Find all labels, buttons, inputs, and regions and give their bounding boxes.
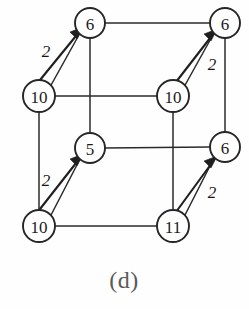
node-top-back-left-label: 6 — [86, 15, 95, 34]
arrow-top-left-weight: 2 — [42, 42, 51, 61]
arrow-bottom-left: 2 — [40, 154, 83, 209]
node-top-front-right-label: 10 — [165, 88, 182, 107]
node-bot-front-right[interactable]: 11 — [157, 210, 189, 242]
cube-graph-diagram: 2 2 2 2 6 — [0, 0, 249, 309]
node-bot-front-left-label: 10 — [31, 218, 48, 237]
node-top-back-right-label: 6 — [221, 15, 230, 34]
figure-caption: (d) — [109, 267, 138, 293]
arrow-bottom-right: 2 — [176, 156, 217, 212]
node-top-front-left[interactable]: 10 — [23, 80, 55, 112]
node-top-back-right[interactable]: 6 — [210, 8, 240, 38]
node-bot-front-left[interactable]: 10 — [23, 210, 55, 242]
node-bot-back-left-label: 5 — [86, 140, 95, 159]
arrow-top-right: 2 — [176, 29, 217, 82]
edge-diagonal-bottom-left — [50, 159, 80, 217]
figure-container: 2 2 2 2 6 — [0, 0, 249, 309]
node-bot-back-right-label: 6 — [221, 139, 230, 158]
edge-bot-back-horizontal — [105, 147, 210, 148]
edge-diagonal-top-left — [50, 33, 80, 87]
node-bot-back-left[interactable]: 5 — [75, 133, 105, 163]
node-bot-back-right[interactable]: 6 — [210, 132, 240, 162]
node-top-back-left[interactable]: 6 — [75, 8, 105, 38]
arrow-top-left: 2 — [40, 27, 83, 80]
arrow-bottom-right-weight: 2 — [208, 183, 217, 202]
arrow-bottom-left-weight: 2 — [42, 171, 51, 190]
node-top-front-left-label: 10 — [31, 88, 48, 107]
node-bot-front-right-label: 11 — [165, 218, 181, 237]
node-top-front-right[interactable]: 10 — [157, 80, 189, 112]
arrow-top-right-weight: 2 — [208, 55, 217, 74]
